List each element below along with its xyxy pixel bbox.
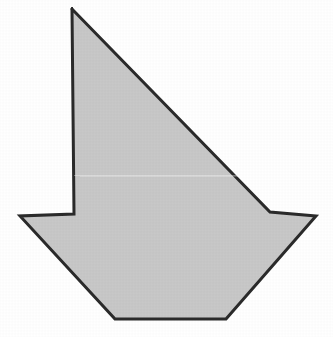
figure-canvas — [0, 0, 333, 337]
sailboat-polygon — [20, 8, 316, 319]
polygon-figure — [0, 0, 333, 337]
